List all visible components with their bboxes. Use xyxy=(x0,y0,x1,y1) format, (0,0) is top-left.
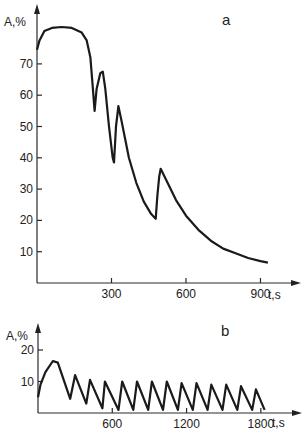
y-tick-label: 10 xyxy=(21,375,35,389)
panel-a: 10203040506070 300600900 A,% t,s a xyxy=(4,4,301,302)
panel-a-curve xyxy=(37,27,268,263)
panel-a-label: a xyxy=(222,11,231,28)
panel-b-x-axis-label: t,s xyxy=(272,416,285,430)
panel-a-y-axis-label: A,% xyxy=(4,15,26,29)
x-tick-label: 1200 xyxy=(173,417,200,431)
x-tick-label: 1800 xyxy=(247,417,274,431)
y-tick-label: 70 xyxy=(20,57,34,71)
y-tick-label: 20 xyxy=(20,213,34,227)
panel-a-x-ticks: 300600900 xyxy=(101,278,270,301)
y-tick-label: 10 xyxy=(20,245,34,259)
panel-b-y-arrow-icon xyxy=(35,323,41,333)
panel-b: 1020 60012001800 A,% t,s b xyxy=(6,322,302,431)
panel-b-x-arrow-icon xyxy=(292,410,302,416)
panel-a-y-arrow-icon xyxy=(34,4,40,14)
panel-b-curve xyxy=(38,361,265,410)
panel-a-x-axis-label: t,s xyxy=(268,288,281,302)
y-tick-label: 30 xyxy=(20,182,34,196)
panel-b-y-axis-label: A,% xyxy=(6,329,28,343)
y-tick-label: 40 xyxy=(20,151,34,165)
panel-a-y-ticks: 10203040506070 xyxy=(20,57,42,259)
x-tick-label: 300 xyxy=(101,287,121,301)
panel-b-y-ticks: 1020 xyxy=(21,343,43,389)
figure: 10203040506070 300600900 A,% t,s a 1020 … xyxy=(0,0,308,442)
panel-b-x-ticks: 60012001800 xyxy=(102,408,274,431)
y-tick-label: 60 xyxy=(20,88,34,102)
y-tick-label: 50 xyxy=(20,120,34,134)
y-tick-label: 20 xyxy=(21,343,35,357)
x-tick-label: 600 xyxy=(176,287,196,301)
panel-a-x-arrow-icon xyxy=(291,280,301,286)
x-tick-label: 600 xyxy=(102,417,122,431)
panel-b-label: b xyxy=(221,322,229,339)
